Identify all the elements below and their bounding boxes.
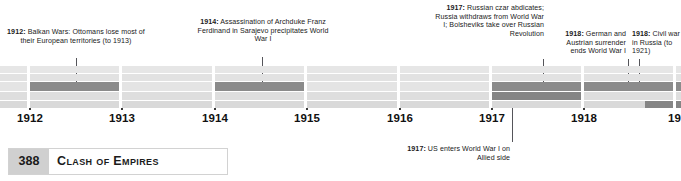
axis-year-1918: 1918 (571, 112, 597, 124)
callout-balkan-wars-year: 1912: (7, 28, 26, 36)
timeline-axis: 1912 1913 1914 1915 1916 1917 1918 19 (0, 108, 681, 136)
timeline-page: 1912: Balkan Wars: Ottomans lose most of… (0, 0, 681, 181)
axis-tick (29, 108, 31, 110)
page-number-box: 388 (9, 149, 49, 174)
callout-us-enters-wwi: 1917: US enters World War I on Allied si… (404, 145, 510, 162)
axis-tick (306, 108, 308, 110)
event-bar-civil-war-upper (582, 82, 681, 91)
callout-us-enters-wwi-year: 1917: (407, 145, 426, 153)
timeline-band (0, 66, 681, 108)
event-bar-balkan-wars (29, 82, 121, 91)
callout-sarajevo-year: 1914: (200, 18, 219, 26)
callout-german-austrian-surrender: 1918: German and Austrian surrender ends… (556, 30, 626, 56)
callout-russian-revolution: 1917: Russian czar abdicates; Russia wit… (432, 4, 544, 38)
event-bar-world-war-one (214, 82, 306, 91)
axis-tick (214, 108, 216, 110)
page-number: 388 (9, 149, 49, 174)
callout-german-austrian-surrender-year: 1918: (565, 30, 584, 38)
column-separator (489, 66, 492, 108)
column-separator (119, 66, 122, 108)
axis-tick (491, 108, 493, 110)
callout-russian-civil-war: 1918: Civil war in Russia (to 1921) (632, 30, 680, 56)
axis-year-1912: 1912 (17, 112, 43, 124)
timeline-lane-2 (0, 74, 681, 81)
column-separator (304, 66, 307, 108)
timeline-lane-5 (0, 101, 681, 108)
axis-year-1919-clipped: 19 (668, 112, 681, 124)
callout-russian-revolution-year: 1917: (447, 4, 466, 12)
axis-year-1917: 1917 (479, 112, 505, 124)
callout-russian-civil-war-year: 1918: (632, 30, 651, 38)
axis-tick (121, 108, 123, 110)
column-separator (212, 66, 215, 108)
event-bar-russia-lower (490, 92, 582, 100)
axis-year-1915: 1915 (294, 112, 320, 124)
axis-year-1913: 1913 (109, 112, 135, 124)
column-separator (27, 66, 30, 108)
callout-us-enters-wwi-text: US enters World War I on Allied side (426, 145, 510, 162)
chapter-title: Clash of Empires (57, 149, 159, 174)
leader-line-us-enters-wwi (512, 108, 513, 142)
page-footer: 388 Clash of Empires (8, 148, 228, 175)
callout-balkan-wars-text: Balkan Wars: Ottomans lose most of their… (21, 28, 145, 45)
callout-sarajevo: 1914: Assassination of Archduke Franz Fe… (192, 18, 334, 44)
axis-tick (583, 108, 585, 110)
axis-year-1914: 1914 (202, 112, 228, 124)
callout-balkan-wars: 1912: Balkan Wars: Ottomans lose most of… (4, 28, 148, 45)
column-separator (673, 66, 676, 108)
axis-year-1916: 1916 (387, 112, 413, 124)
event-bar-russia-upper (490, 82, 582, 91)
column-separator (397, 66, 400, 108)
axis-tick (399, 108, 401, 110)
timeline-lane-1 (0, 66, 681, 73)
column-separator (581, 66, 584, 108)
